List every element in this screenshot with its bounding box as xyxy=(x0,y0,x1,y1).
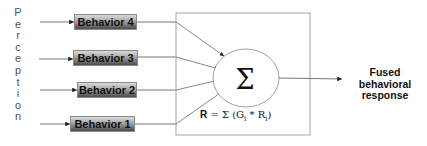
output-arrow xyxy=(279,78,342,79)
output-line-3: response xyxy=(348,90,422,102)
behavior-box-3: Behavior 3 xyxy=(73,50,138,66)
converge-arrow-3 xyxy=(176,57,219,69)
perception-letter: n xyxy=(15,111,21,123)
behavior-box-2: Behavior 2 xyxy=(77,82,137,98)
behavior-box-4: Behavior 4 xyxy=(74,14,137,30)
formula-mult: * R xyxy=(246,109,265,120)
output-label: Fused behavioral response xyxy=(348,67,422,102)
behavior-label: Behavior 3 xyxy=(77,52,133,64)
behavior-label: Behavior 4 xyxy=(77,16,133,28)
formula-close: ) xyxy=(268,109,272,120)
converge-arrow-4 xyxy=(176,22,224,56)
behavior-box-1: Behavior 1 xyxy=(70,116,135,132)
perception-letter: p xyxy=(15,65,21,77)
perception-letter: i xyxy=(17,88,19,100)
behavior-label: Behavior 2 xyxy=(79,84,135,96)
perception-letter: P xyxy=(14,7,21,19)
output-line-1: Fused xyxy=(348,67,422,79)
perception-label: P e r c e p t i o n xyxy=(12,7,24,123)
behavior-label: Behavior 1 xyxy=(74,118,130,130)
formula-eq: = Σ (G xyxy=(207,109,244,120)
converge-arrow-2 xyxy=(176,80,219,90)
fusion-formula: R = Σ (Gi * Ri) xyxy=(200,109,300,123)
sigma-symbol: Σ xyxy=(229,61,261,97)
